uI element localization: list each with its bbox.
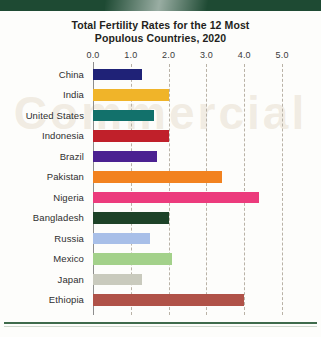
page-footer-rule-secondary xyxy=(4,326,317,327)
bar xyxy=(93,212,169,224)
bar-row xyxy=(93,228,301,249)
chart-title-line-1: Total Fertility Rates for the 12 Most xyxy=(26,19,295,32)
bar xyxy=(93,151,157,163)
y-axis-label: Pakistan xyxy=(0,167,89,188)
bar xyxy=(93,274,142,286)
bar-row xyxy=(93,290,301,311)
bar-row xyxy=(93,126,301,147)
y-axis-label: India xyxy=(0,85,89,106)
y-axis-label: Mexico xyxy=(0,249,89,270)
header-band-sheen xyxy=(105,0,225,11)
x-tick-label: 1.0 xyxy=(124,50,137,60)
bar-row xyxy=(93,187,301,208)
page-header-band xyxy=(0,0,321,11)
y-axis-label: Nigeria xyxy=(0,187,89,208)
x-tick-label: 5.0 xyxy=(276,50,289,60)
plot-area xyxy=(93,64,301,310)
x-axis-tick-labels: 0.01.02.03.04.05.0 xyxy=(0,50,321,64)
bar-row xyxy=(93,208,301,229)
bar xyxy=(93,171,222,183)
textbook-page: Commercial Total Fertility Rates for the… xyxy=(0,0,321,337)
bar xyxy=(93,69,142,81)
bar-series xyxy=(93,64,301,310)
bar xyxy=(93,89,169,101)
page-footer-rule xyxy=(4,322,317,324)
bar xyxy=(93,294,244,306)
y-axis-label: Russia xyxy=(0,228,89,249)
y-axis-label: Ethiopia xyxy=(0,290,89,311)
x-tick-label: 3.0 xyxy=(200,50,213,60)
bar xyxy=(93,130,169,142)
bar-row xyxy=(93,167,301,188)
y-axis-category-labels: ChinaIndiaUnited StatesIndonesiaBrazilPa… xyxy=(0,64,89,310)
chart-title-line-2: Populous Countries, 2020 xyxy=(26,32,295,45)
x-tick-label: 2.0 xyxy=(162,50,175,60)
bar-row xyxy=(93,105,301,126)
bar xyxy=(93,233,150,245)
fertility-rate-bar-chart: Total Fertility Rates for the 12 Most Po… xyxy=(0,11,321,321)
bar-row xyxy=(93,146,301,167)
x-tick-label: 0.0 xyxy=(86,50,99,60)
plot-wrapper: 0.01.02.03.04.05.0 ChinaIndiaUnited Stat… xyxy=(0,50,321,322)
y-axis-label: Bangladesh xyxy=(0,208,89,229)
y-axis-label: China xyxy=(0,64,89,85)
bar xyxy=(93,192,259,204)
y-axis-label: Japan xyxy=(0,269,89,290)
bar-row xyxy=(93,85,301,106)
x-tick-label: 4.0 xyxy=(238,50,251,60)
bar-row xyxy=(93,269,301,290)
bar xyxy=(93,110,154,122)
chart-title: Total Fertility Rates for the 12 Most Po… xyxy=(26,19,295,44)
bar-row xyxy=(93,64,301,85)
bar-row xyxy=(93,249,301,270)
y-axis-label: Indonesia xyxy=(0,126,89,147)
bar xyxy=(93,253,172,265)
y-axis-label: Brazil xyxy=(0,146,89,167)
y-axis-label: United States xyxy=(0,105,89,126)
